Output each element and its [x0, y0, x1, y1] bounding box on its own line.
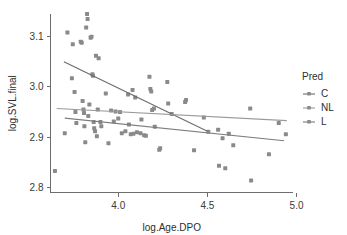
- trend-line-nl: [57, 109, 287, 121]
- data-point: [135, 130, 139, 134]
- data-point: [81, 99, 85, 103]
- data-point: [95, 134, 99, 138]
- data-point: [144, 134, 148, 138]
- scatter-plot-figure: 2.82.93.03.14.04.55.0 log.Age.DPOlog.SVL…: [0, 0, 347, 235]
- data-point: [184, 98, 188, 102]
- data-point: [73, 90, 77, 94]
- data-point: [99, 124, 103, 128]
- data-point: [80, 41, 84, 45]
- data-point: [85, 12, 89, 16]
- data-point: [116, 117, 120, 121]
- legend-swatch-point: [307, 92, 311, 96]
- data-point: [147, 75, 151, 79]
- axis-titles-group: log.Age.DPOlog.SVL.final: [7, 75, 201, 233]
- data-point: [120, 131, 124, 135]
- data-point: [223, 166, 227, 170]
- data-point: [139, 131, 143, 135]
- tick-labels-group: 2.82.93.03.14.04.55.0: [30, 31, 304, 210]
- axes-group: [47, 14, 297, 197]
- x-axis-tick-label: 5.0: [290, 200, 304, 211]
- data-point: [158, 146, 162, 150]
- plot-canvas: 2.82.93.03.14.04.55.0 log.Age.DPOlog.SVL…: [0, 0, 347, 235]
- legend-item-label: C: [321, 88, 328, 99]
- data-point: [152, 107, 156, 111]
- data-point: [221, 136, 225, 140]
- data-point: [104, 91, 108, 95]
- data-point: [131, 132, 135, 136]
- legend-item-label: L: [321, 116, 327, 127]
- data-point: [86, 114, 90, 118]
- data-point: [82, 124, 86, 128]
- data-point: [53, 169, 57, 173]
- y-axis-tick-label: 3.0: [30, 81, 44, 92]
- data-point: [149, 89, 153, 93]
- data-point: [216, 128, 220, 132]
- legend-swatch-point: [307, 106, 311, 110]
- data-point: [82, 111, 86, 115]
- data-point: [70, 76, 74, 80]
- data-point: [106, 141, 110, 145]
- data-point: [123, 129, 127, 133]
- data-point: [63, 131, 67, 135]
- data-point: [71, 42, 75, 46]
- data-point: [86, 17, 90, 21]
- data-point: [217, 164, 221, 168]
- data-point: [93, 129, 97, 133]
- legend-title: Pred: [302, 71, 323, 82]
- x-axis-tick-label: 4.0: [111, 200, 125, 211]
- legend-swatch-point: [307, 120, 311, 124]
- data-point: [277, 121, 281, 125]
- data-point: [166, 102, 170, 106]
- data-point: [74, 121, 78, 125]
- data-point: [73, 110, 77, 114]
- data-point: [131, 88, 135, 92]
- legend-group: PredCNLL: [302, 71, 334, 127]
- data-point: [248, 107, 252, 111]
- data-point: [139, 118, 143, 122]
- y-axis-title: log.SVL.final: [7, 75, 18, 131]
- data-point: [231, 143, 235, 147]
- legend-item-l[interactable]: L: [303, 116, 327, 127]
- data-point: [267, 152, 271, 156]
- x-axis-tick-label: 4.5: [200, 200, 214, 211]
- legend-item-nl[interactable]: NL: [303, 102, 334, 113]
- data-points-group: [53, 12, 288, 182]
- data-point: [90, 35, 94, 39]
- data-point: [165, 80, 169, 84]
- data-point: [249, 178, 253, 182]
- y-axis-tick-label: 3.1: [30, 31, 44, 42]
- data-point: [192, 148, 196, 152]
- data-point: [83, 140, 87, 144]
- y-axis-tick-label: 2.9: [30, 132, 44, 143]
- data-point: [97, 56, 101, 60]
- data-point: [65, 31, 69, 35]
- x-axis-title: log.Age.DPO: [143, 222, 202, 233]
- data-point: [87, 103, 91, 107]
- y-axis-tick-label: 2.8: [30, 182, 44, 193]
- legend-item-label: NL: [321, 102, 334, 113]
- data-point: [84, 26, 88, 30]
- data-point: [284, 132, 288, 136]
- legend-item-c[interactable]: C: [303, 88, 328, 99]
